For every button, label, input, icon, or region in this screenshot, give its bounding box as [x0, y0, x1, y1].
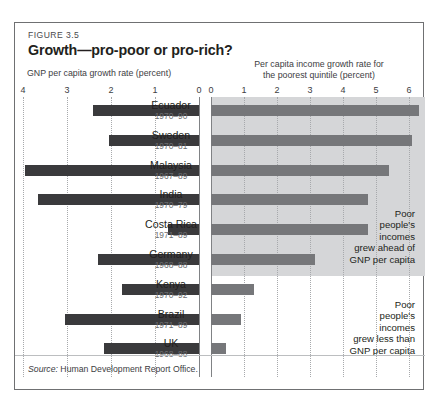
annotation-line: people's	[350, 310, 415, 321]
annotation-line: grew ahead of	[350, 242, 415, 253]
annotation-line: people's	[350, 219, 415, 230]
tick-right-0: 0	[204, 85, 218, 95]
tick-right-3: 3	[303, 85, 317, 95]
country-label-costa-rica: Costa Rica1971–89	[133, 219, 209, 240]
country-label-ecuador: Ecuador1970–90	[133, 100, 209, 121]
country-label-brazil: Brazil1971–89	[133, 309, 209, 330]
annotation-line: GNP per capita	[350, 254, 415, 265]
bar-right-costa-rica	[211, 224, 368, 235]
tick-right-5: 5	[369, 85, 383, 95]
bar-right-uk	[211, 343, 226, 354]
tick-left-4: 4	[16, 85, 30, 95]
bar-right-malaysia	[211, 165, 389, 176]
tick-right-4: 4	[336, 85, 350, 95]
country-label-india: India1970–79	[133, 189, 209, 210]
source-divider	[15, 355, 425, 356]
tick-left-2: 2	[104, 85, 118, 95]
source-note: Source: Human Development Report Office.	[28, 364, 198, 374]
bar-right-sweden	[211, 135, 412, 146]
country-label-kenya: Kenya1970–92	[133, 279, 209, 300]
bar-right-brazil	[211, 314, 241, 325]
country-period: 1971–89	[133, 320, 209, 330]
annotation-line: grew less than	[350, 333, 415, 344]
country-name: Sweden	[133, 130, 209, 141]
annotation-line: Poor	[350, 208, 415, 219]
annotation-line: incomes	[350, 322, 415, 333]
tick-right-6: 6	[402, 85, 416, 95]
figure-frame: FIGURE 3.5 Growth—pro-poor or pro-rich? …	[14, 22, 424, 390]
country-name: Costa Rica	[133, 219, 209, 230]
annotation-pro-poor: Poorpeople'sincomesgrew ahead ofGNP per …	[350, 208, 415, 265]
bar-right-india	[211, 194, 368, 205]
country-name: India	[133, 189, 209, 200]
gridline-left-3	[67, 97, 68, 377]
country-name: Kenya	[133, 279, 209, 290]
annotation-line: Poor	[350, 299, 415, 310]
country-period: 1970–92	[133, 290, 209, 300]
annotation-pro-rich: Poorpeople'sincomesgrew less thanGNP per…	[350, 299, 415, 356]
country-period: 1970–81	[133, 141, 209, 151]
country-period: 1970–90	[133, 111, 209, 121]
country-name: Ecuador	[133, 100, 209, 111]
tick-right-2: 2	[270, 85, 284, 95]
tick-right-1: 1	[237, 85, 251, 95]
country-label-uk: UK1968–88	[133, 338, 209, 359]
annotation-line: incomes	[350, 231, 415, 242]
country-label-sweden: Sweden1970–81	[133, 130, 209, 151]
country-name: Brazil	[133, 309, 209, 320]
country-name: Malaysia	[133, 160, 209, 171]
country-period: 1971–89	[133, 230, 209, 240]
source-text: Human Development Report Office.	[58, 364, 198, 374]
country-period: 1967–89	[133, 171, 209, 181]
bar-right-ecuador	[211, 105, 419, 116]
country-period: 1970–79	[133, 200, 209, 210]
gridline-left-4	[23, 97, 24, 377]
bar-right-kenya	[211, 284, 254, 295]
country-name: Germany	[133, 249, 209, 260]
country-label-germany: Germany1968–88	[133, 249, 209, 270]
tick-left-3: 3	[60, 85, 74, 95]
tick-left-1: 1	[148, 85, 162, 95]
source-label: Source:	[28, 364, 58, 374]
bar-right-germany	[211, 254, 315, 265]
country-label-malaysia: Malaysia1967–89	[133, 160, 209, 181]
country-name: UK	[133, 338, 209, 349]
country-period: 1968–88	[133, 260, 209, 270]
